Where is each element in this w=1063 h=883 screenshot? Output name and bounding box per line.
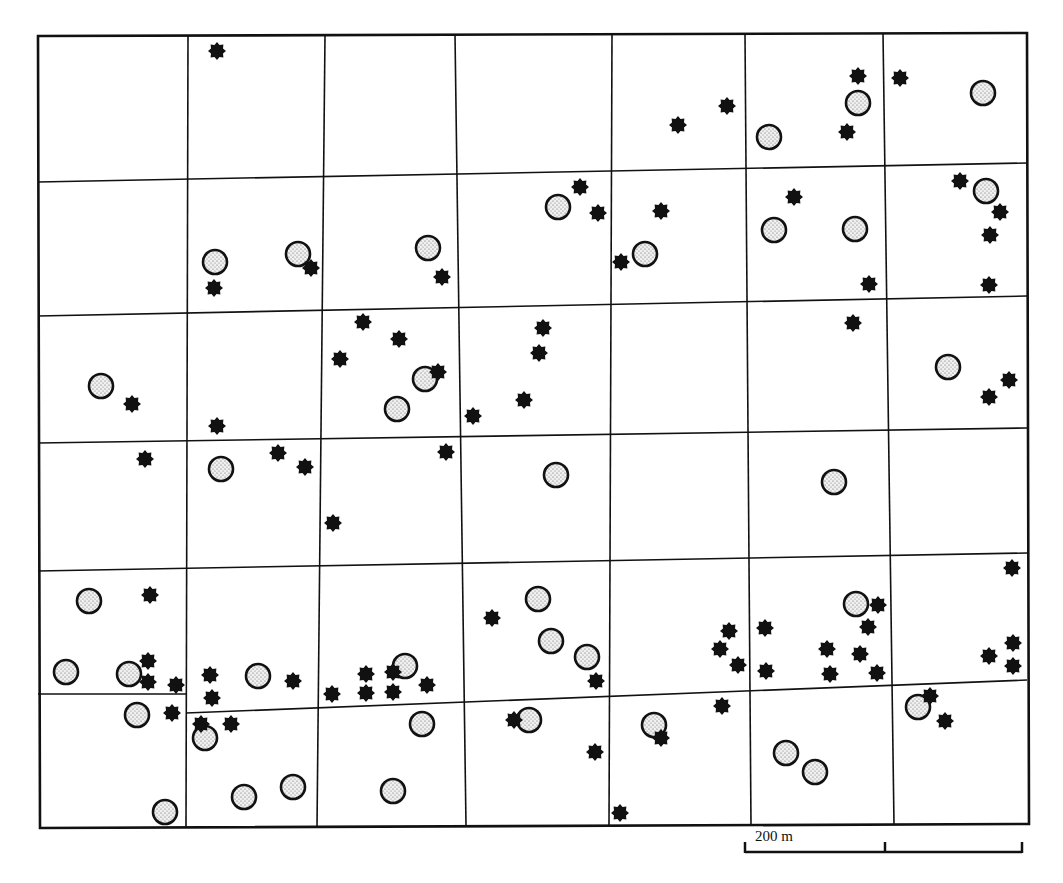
eight-point-star-icon <box>136 450 154 468</box>
stippled-circle-icon <box>971 81 995 105</box>
eight-point-star-icon <box>718 97 736 115</box>
stippled-circle-icon <box>385 397 409 421</box>
eight-point-star-icon <box>208 42 226 60</box>
stippled-circle-icon <box>633 242 657 266</box>
stippled-circle-icon <box>416 236 440 260</box>
eight-point-star-icon <box>222 715 240 733</box>
eight-point-star-icon <box>464 407 482 425</box>
eight-point-star-icon <box>611 804 629 822</box>
stippled-circle-icon <box>117 662 141 686</box>
eight-point-star-icon <box>652 202 670 220</box>
eight-point-star-icon <box>123 395 141 413</box>
eight-point-star-icon <box>821 665 839 683</box>
eight-point-star-icon <box>201 666 219 684</box>
stippled-circle-icon <box>974 179 998 203</box>
eight-point-star-icon <box>192 715 210 733</box>
stippled-circle-icon <box>125 703 149 727</box>
star-sites <box>123 42 1022 822</box>
eight-point-star-icon <box>571 178 589 196</box>
grid-line-vertical <box>186 35 188 827</box>
eight-point-star-icon <box>429 363 447 381</box>
eight-point-star-icon <box>589 204 607 222</box>
eight-point-star-icon <box>891 69 909 87</box>
eight-point-star-icon <box>296 458 314 476</box>
eight-point-star-icon <box>980 276 998 294</box>
stippled-circle-icon <box>539 629 563 653</box>
eight-point-star-icon <box>711 640 729 658</box>
grid-line-vertical <box>609 34 612 826</box>
stippled-circle-icon <box>209 457 233 481</box>
eight-point-star-icon <box>515 391 533 409</box>
eight-point-star-icon <box>530 344 548 362</box>
grid-line-horizontal <box>38 163 1027 182</box>
eight-point-star-icon <box>818 640 836 658</box>
grid-line-vertical <box>883 33 894 825</box>
eight-point-star-icon <box>1003 559 1021 577</box>
stippled-circle-icon <box>203 250 227 274</box>
stippled-circle-icon <box>774 741 798 765</box>
stippled-circle-icon <box>410 712 434 736</box>
eight-point-star-icon <box>921 687 939 705</box>
stippled-circle-icon <box>843 217 867 241</box>
eight-point-star-icon <box>324 514 342 532</box>
stippled-circle-icon <box>757 125 781 149</box>
eight-point-star-icon <box>433 268 451 286</box>
eight-point-star-icon <box>1000 371 1018 389</box>
eight-point-star-icon <box>205 279 223 297</box>
stippled-circle-icon <box>526 587 550 611</box>
eight-point-star-icon <box>302 259 320 277</box>
eight-point-star-icon <box>851 645 869 663</box>
eight-point-star-icon <box>269 444 287 462</box>
stippled-circle-icon <box>546 195 570 219</box>
eight-point-star-icon <box>951 172 969 190</box>
eight-point-star-icon <box>991 203 1009 221</box>
scale-bar-label: 200 m <box>755 828 793 845</box>
grid-line-vertical <box>745 34 751 825</box>
eight-point-star-icon <box>849 67 867 85</box>
eight-point-star-icon <box>483 609 501 627</box>
eight-point-star-icon <box>163 704 181 722</box>
stippled-circle-icon <box>54 660 78 684</box>
eight-point-star-icon <box>139 673 157 691</box>
eight-point-star-icon <box>1004 634 1022 652</box>
eight-point-star-icon <box>868 664 886 682</box>
eight-point-star-icon <box>437 443 455 461</box>
eight-point-star-icon <box>354 313 372 331</box>
eight-point-star-icon <box>323 685 341 703</box>
eight-point-star-icon <box>859 618 877 636</box>
stippled-circle-icon <box>232 785 256 809</box>
stippled-circle-icon <box>844 592 868 616</box>
eight-point-star-icon <box>980 388 998 406</box>
stippled-circle-icon <box>822 470 846 494</box>
eight-point-star-icon <box>384 663 402 681</box>
grid-line-horizontal <box>186 680 1027 713</box>
stippled-circle-icon <box>846 91 870 115</box>
site-distribution-map <box>0 0 1063 883</box>
eight-point-star-icon <box>980 647 998 665</box>
stippled-circle-icon <box>803 760 827 784</box>
grid-line-horizontal <box>38 296 1027 316</box>
eight-point-star-icon <box>418 676 436 694</box>
eight-point-star-icon <box>167 676 185 694</box>
eight-point-star-icon <box>844 314 862 332</box>
stippled-circle-icon <box>153 800 177 824</box>
eight-point-star-icon <box>586 743 604 761</box>
stippled-circle-icon <box>936 355 960 379</box>
eight-point-star-icon <box>669 116 687 134</box>
eight-point-star-icon <box>587 672 605 690</box>
eight-point-star-icon <box>203 689 221 707</box>
eight-point-star-icon <box>1004 657 1022 675</box>
eight-point-star-icon <box>505 711 523 729</box>
eight-point-star-icon <box>729 656 747 674</box>
eight-point-star-icon <box>757 662 775 680</box>
stippled-circle-icon <box>246 664 270 688</box>
stippled-circle-icon <box>381 779 405 803</box>
eight-point-star-icon <box>981 226 999 244</box>
eight-point-star-icon <box>208 417 226 435</box>
stippled-circle-icon <box>544 463 568 487</box>
eight-point-star-icon <box>357 665 375 683</box>
eight-point-star-icon <box>141 586 159 604</box>
eight-point-star-icon <box>860 275 878 293</box>
eight-point-star-icon <box>785 188 803 206</box>
stippled-circle-icon <box>77 589 101 613</box>
